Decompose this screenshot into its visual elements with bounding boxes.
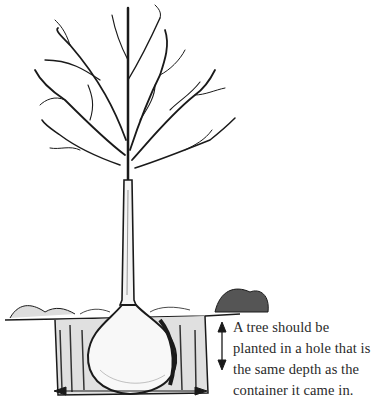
caption-line-3: the same depth as the — [233, 359, 391, 380]
tree-branches — [35, 5, 235, 180]
planting-depth-caption: A tree should be planted in a hole that … — [233, 317, 391, 401]
depth-arrow-icon — [218, 322, 226, 370]
tree-trunk — [120, 180, 136, 305]
caption-line-4: container it came in. — [233, 380, 391, 401]
caption-line-2: planted in a hole that is — [233, 338, 391, 359]
caption-line-1: A tree should be — [233, 317, 391, 338]
